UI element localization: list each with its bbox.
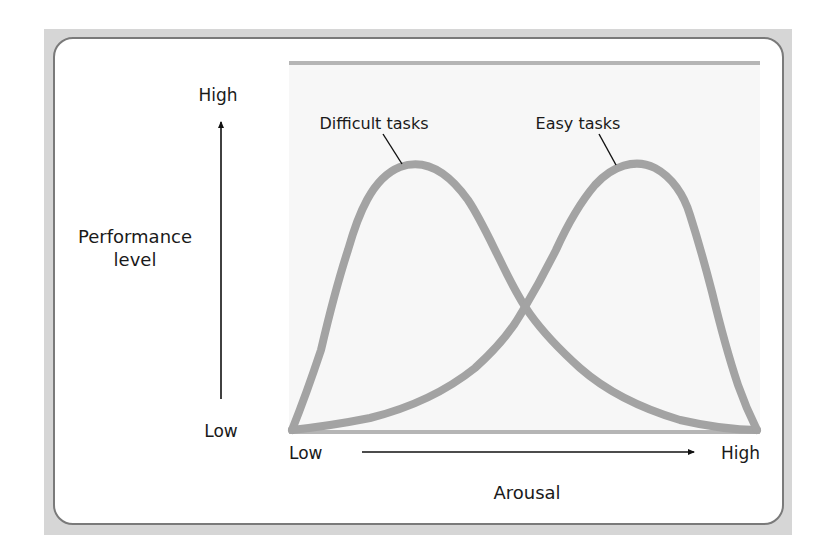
easy-tasks-label: Easy tasks	[536, 114, 621, 133]
difficult-tasks-label: Difficult tasks	[320, 114, 429, 133]
y-axis-high-label: High	[198, 85, 237, 105]
plot-baseline-bar	[289, 430, 760, 434]
x-axis-low-label: Low	[289, 443, 323, 463]
x-axis-title: Arousal	[493, 482, 560, 503]
y-axis-title-line1: Performance	[78, 226, 192, 247]
yerkes-dodson-chart: Difficult tasks Easy tasks High Low Perf…	[0, 0, 835, 560]
x-axis-high-label: High	[721, 443, 760, 463]
y-axis-title-line2: level	[114, 249, 157, 270]
plot-top-bar	[289, 61, 760, 65]
y-axis-low-label: Low	[204, 421, 238, 441]
